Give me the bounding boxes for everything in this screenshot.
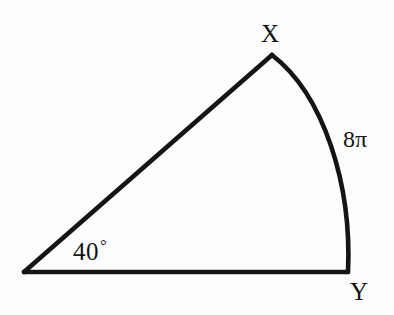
vertex-label-x: X [261, 21, 279, 46]
circular-sector-drawing [0, 0, 394, 315]
radius-line-to-x [24, 55, 272, 272]
vertex-label-y: Y [350, 279, 368, 304]
angle-value-text: 40 [73, 238, 99, 265]
arc-path-xy [272, 55, 348, 272]
geometry-figure: X Y 8π 40° [0, 0, 394, 315]
degree-symbol-icon: ° [100, 236, 107, 255]
angle-measure-label: 40° [73, 237, 107, 264]
arc-length-label: 8π [343, 127, 367, 151]
